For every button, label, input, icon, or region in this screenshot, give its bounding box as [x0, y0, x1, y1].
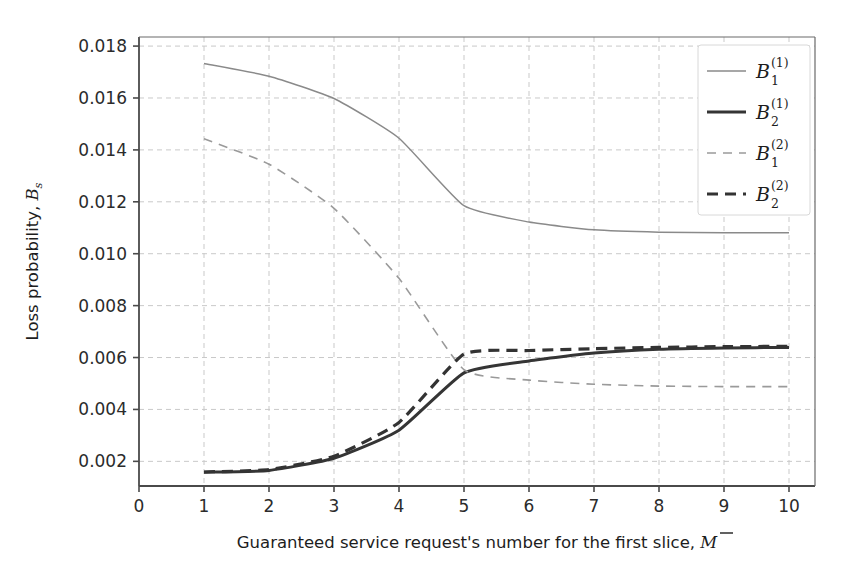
chart-svg: 0123456789100.0020.0040.0060.0080.0100.0…	[0, 0, 850, 583]
y-tick-label: 0.014	[78, 140, 127, 160]
y-axis-title: Loss probability, Bs	[23, 182, 45, 340]
legend-label-sup-4: (2)	[771, 178, 789, 193]
legend-label-sub-1: 1	[771, 73, 779, 88]
x-tick-label: 4	[394, 496, 405, 516]
legend-label-sup-3: (2)	[771, 137, 789, 152]
y-tick-label: 0.004	[78, 399, 127, 419]
y-tick-label: 0.002	[78, 451, 127, 471]
legend-label-sub-4: 2	[771, 196, 779, 211]
y-tick-label: 0.018	[78, 36, 127, 56]
y-axis-symbol: B	[23, 188, 42, 201]
x-axis-symbol: M	[699, 533, 718, 552]
x-tick-label: 8	[654, 496, 665, 516]
y-tick-label: 0.016	[78, 88, 127, 108]
x-axis-title: Guaranteed service request's number for …	[237, 533, 719, 552]
chart-legend[interactable]: B1(1)B2(1)B1(2)B2(2)	[698, 45, 810, 215]
x-tick-label: 0	[134, 496, 145, 516]
x-tick-label: 2	[264, 496, 275, 516]
chart-figure: 0123456789100.0020.0040.0060.0080.0100.0…	[0, 0, 850, 583]
legend-label-sub-2: 2	[771, 114, 779, 129]
y-tick-label: 0.008	[78, 296, 127, 316]
x-tick-label: 3	[329, 496, 340, 516]
legend-label-sup-1: (1)	[771, 55, 789, 70]
y-tick-label: 0.006	[78, 348, 127, 368]
legend-label-sup-2: (1)	[771, 96, 789, 111]
y-tick-label: 0.010	[78, 244, 127, 264]
legend-label-sub-3: 1	[771, 155, 779, 170]
x-tick-label: 9	[719, 496, 730, 516]
x-tick-label: 1	[199, 496, 210, 516]
x-tick-label: 7	[589, 496, 600, 516]
x-tick-label: 5	[459, 496, 470, 516]
y-tick-label: 0.012	[78, 192, 127, 212]
y-axis-symbol-subscript: s	[31, 182, 45, 188]
x-tick-label: 6	[524, 496, 535, 516]
x-tick-label: 10	[778, 496, 800, 516]
y-tick-labels: 0.0020.0040.0060.0080.0100.0120.0140.016…	[78, 36, 127, 471]
